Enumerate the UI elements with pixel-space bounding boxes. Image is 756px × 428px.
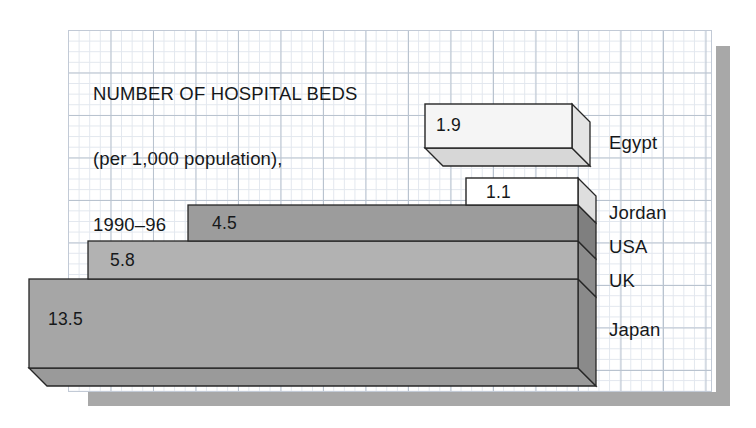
- bar-value-egypt: 1.9: [436, 115, 461, 136]
- bar-japan-bottom-face: [29, 368, 596, 386]
- category-label-usa: USA: [609, 236, 648, 258]
- bar-value-jordan: 1.1: [486, 182, 511, 203]
- category-label-japan: Japan: [609, 319, 660, 341]
- bar-value-uk: 5.8: [110, 250, 135, 271]
- bar-usa-front-face: [188, 205, 578, 241]
- bar-jordan-front-face: [466, 178, 578, 205]
- category-label-egypt: Egypt: [609, 132, 657, 154]
- bar-uk-front-face: [88, 241, 578, 279]
- category-label-uk: UK: [609, 270, 635, 292]
- bar-japan-front-face: [29, 279, 578, 368]
- bar-value-japan: 13.5: [48, 309, 83, 330]
- chart-figure: NUMBER OF HOSPITAL BEDS (per 1,000 popul…: [0, 0, 756, 428]
- bar-value-usa: 4.5: [212, 213, 237, 234]
- category-label-jordan: Jordan: [609, 202, 667, 224]
